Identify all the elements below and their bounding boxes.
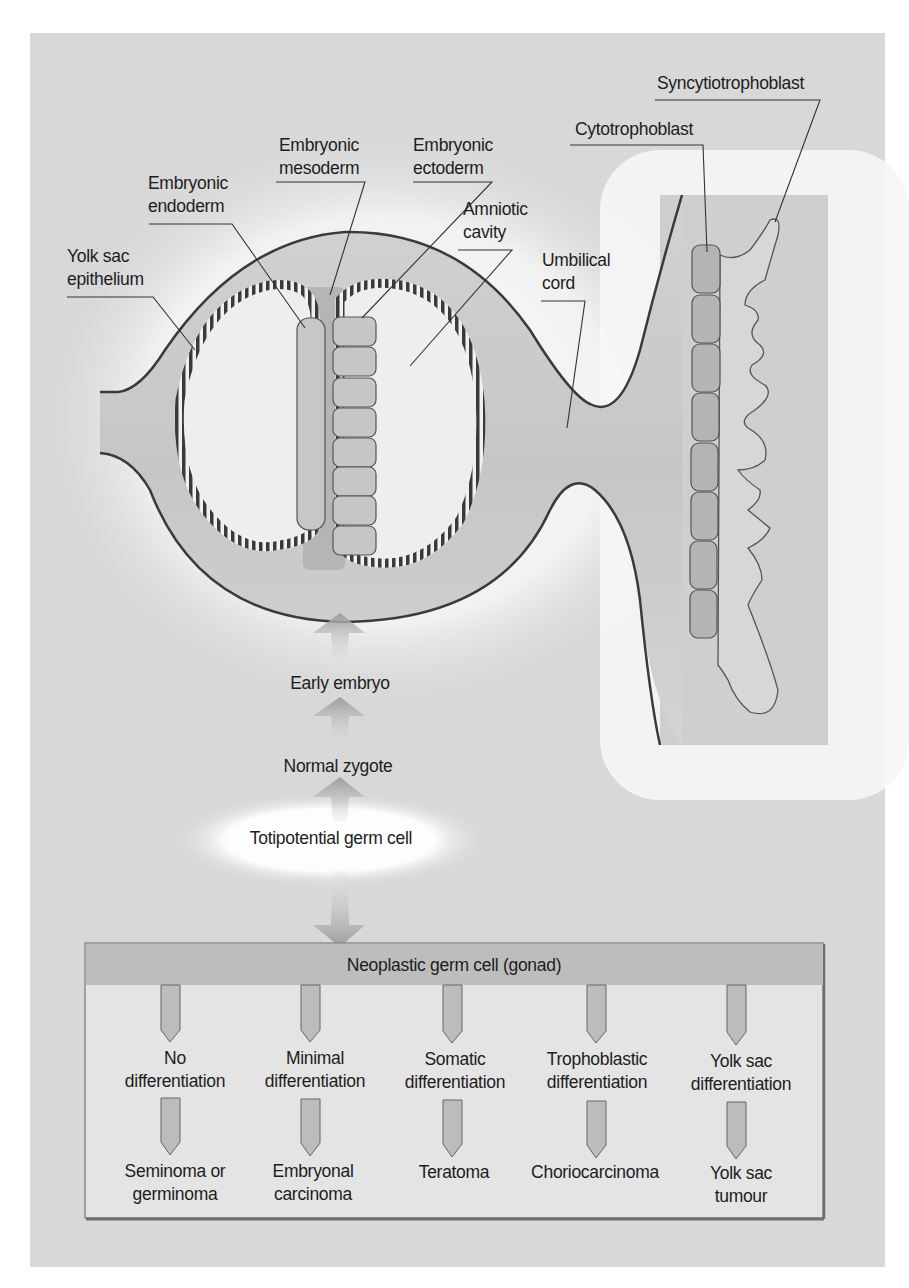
label-choriocarcinoma: Choriocarcinoma xyxy=(531,1161,659,1184)
label-syncytiotrophoblast: Syncytiotrophoblast xyxy=(657,72,804,95)
label-minimal-differentiation: Minimal differentiation xyxy=(265,1047,365,1093)
neoplastic-box-title: Neoplastic germ cell (gonad) xyxy=(85,945,823,985)
label-somatic-differentiation: Somatic differentiation xyxy=(405,1048,505,1094)
label-amniotic-cavity: Amniotic cavity xyxy=(463,198,528,244)
label-seminoma: Seminoma or germinoma xyxy=(125,1160,226,1206)
label-teratoma: Teratoma xyxy=(419,1161,490,1184)
label-embryonic-ectoderm: Embryonic ectoderm xyxy=(413,134,493,180)
label-totipotential-germ-cell: Totipotential germ cell xyxy=(250,827,412,850)
label-no-differentiation: No differentiation xyxy=(125,1047,225,1093)
label-embryonic-mesoderm: Embryonic mesoderm xyxy=(279,134,359,180)
label-yolk-sac-differentiation: Yolk sac differentiation xyxy=(691,1050,791,1096)
label-trophoblastic-differentiation: Trophoblastic differentiation xyxy=(547,1048,648,1094)
label-yolk-sac-epithelium: Yolk sac epithelium xyxy=(67,245,144,291)
ectoderm-cells xyxy=(333,317,376,555)
label-embryonal-carcinoma: Embryonal carcinoma xyxy=(273,1160,354,1206)
label-yolk-sac-tumour: Yolk sac tumour xyxy=(710,1162,772,1208)
label-cytotrophoblast: Cytotrophoblast xyxy=(575,118,693,141)
endoderm-cell xyxy=(297,318,325,530)
label-early-embryo: Early embryo xyxy=(290,672,390,695)
label-normal-zygote: Normal zygote xyxy=(284,755,393,778)
label-embryonic-endoderm: Embryonic endoderm xyxy=(148,172,228,218)
label-umbilical-cord: Umbilical cord xyxy=(542,249,610,295)
germ-cell-tumour-diagram: Yolk sac epithelium Embryonic endoderm E… xyxy=(0,0,909,1288)
